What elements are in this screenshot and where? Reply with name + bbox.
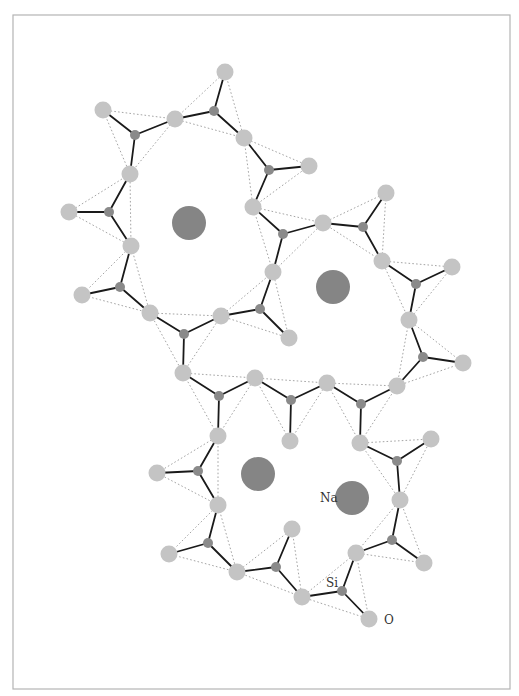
tetrahedron-outline <box>382 261 452 320</box>
silicon-atom <box>411 279 421 289</box>
oxygen-atom <box>361 611 378 628</box>
silicon-atom <box>278 229 288 239</box>
oxygen-atom <box>315 215 332 232</box>
oxygen-atom <box>161 546 178 563</box>
oxygen-atom <box>74 287 91 304</box>
oxygen-atom <box>167 111 184 128</box>
silicon-atom <box>255 304 265 314</box>
oxygen-atom <box>282 433 299 450</box>
oxygen-atom <box>319 375 336 392</box>
tetrahedron-outline <box>244 138 309 207</box>
si-o-bonds <box>69 72 463 619</box>
oxygen-atom <box>352 435 369 452</box>
oxygen-atom <box>281 330 298 347</box>
oxygen-atom <box>142 305 159 322</box>
oxygen-atom <box>378 185 395 202</box>
oxygen-atom <box>301 158 318 175</box>
oxygen-atom <box>423 431 440 448</box>
oxygen-atom <box>95 102 112 119</box>
tetrahedron-edges <box>69 72 463 619</box>
sodium-atom <box>241 457 275 491</box>
oxygen-atom <box>284 521 301 538</box>
silicon-atom <box>179 329 189 339</box>
oxygen-atom <box>389 378 406 395</box>
oxygen-atom <box>123 238 140 255</box>
silicon-atom <box>130 130 140 140</box>
oxygen-atom <box>401 312 418 329</box>
silicon-atom <box>104 207 114 217</box>
tetrahedron-outline <box>157 436 218 505</box>
label-o: O <box>384 613 394 627</box>
oxygen-atom <box>348 545 365 562</box>
oxygen-atom <box>149 465 166 482</box>
silicon-atom <box>358 222 368 232</box>
oxygen-atom <box>229 564 246 581</box>
oxygen-atom <box>294 589 311 606</box>
sodium-atom <box>335 481 369 515</box>
crystal-structure-diagram: Na Si O <box>0 0 519 696</box>
silicon-atom <box>286 395 296 405</box>
oxygen-atom <box>444 259 461 276</box>
oxygen-atom <box>61 204 78 221</box>
silicon-atom <box>271 562 281 572</box>
tetrahedron-outline <box>69 174 131 246</box>
oxygen-atom <box>247 370 264 387</box>
oxygen-atom <box>175 365 192 382</box>
oxygen-atom <box>374 253 391 270</box>
figure-frame <box>13 15 510 689</box>
oxygen-atom <box>265 264 282 281</box>
oxygen-atoms <box>61 64 472 628</box>
oxygen-atom <box>213 308 230 325</box>
oxygen-atom <box>122 166 139 183</box>
silicon-atom <box>214 391 224 401</box>
oxygen-atom <box>455 355 472 372</box>
silicon-atom <box>264 165 274 175</box>
oxygen-atom <box>210 497 227 514</box>
silicon-atom <box>115 282 125 292</box>
tetrahedron-outline <box>82 246 150 313</box>
silicon-atom <box>193 466 203 476</box>
silicon-atom <box>203 538 213 548</box>
silicon-atom <box>392 456 402 466</box>
sodium-atom <box>316 270 350 304</box>
silicon-atom <box>337 586 347 596</box>
oxygen-atom <box>236 130 253 147</box>
silicon-atom <box>418 352 428 362</box>
oxygen-atom <box>210 428 227 445</box>
oxygen-atom <box>217 64 234 81</box>
silicon-atom <box>356 399 366 409</box>
tetrahedron-outline <box>356 500 424 563</box>
silicon-atom <box>387 535 397 545</box>
sodium-atom <box>172 206 206 240</box>
oxygen-atom <box>245 199 262 216</box>
silicon-atoms <box>104 106 428 596</box>
oxygen-atom <box>392 492 409 509</box>
oxygen-atom <box>416 555 433 572</box>
tetrahedron-outline <box>103 110 175 174</box>
label-na: Na <box>320 491 338 505</box>
silicon-atom <box>209 106 219 116</box>
label-si: Si <box>326 576 338 590</box>
